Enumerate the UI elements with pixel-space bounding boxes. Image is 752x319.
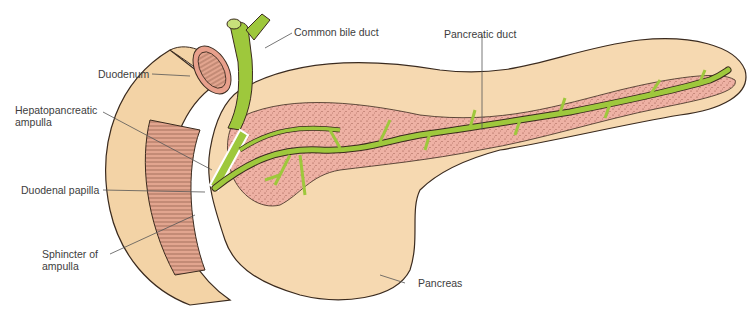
- label-line: Hepatopancreatic: [15, 104, 97, 116]
- label-line: ampulla: [42, 260, 79, 272]
- pancreas: [209, 39, 746, 300]
- label-hepatopancreatic-ampulla: Hepatopancreatic ampulla: [15, 104, 97, 128]
- label-line: Sphincter of: [42, 248, 98, 260]
- label-duodenal-papilla: Duodenal papilla: [21, 184, 99, 196]
- label-pancreatic-duct: Pancreatic duct: [444, 28, 516, 40]
- pancreas-diagram: Duodenum Hepatopancreatic ampulla Duoden…: [0, 0, 752, 319]
- anatomy-illustration: [0, 0, 752, 319]
- label-sphincter-of-ampulla: Sphincter of ampulla: [42, 248, 98, 272]
- label-duodenum: Duodenum: [98, 68, 149, 80]
- label-pancreas: Pancreas: [418, 277, 462, 289]
- label-common-bile-duct: Common bile duct: [294, 26, 379, 38]
- label-line: ampulla: [15, 116, 52, 128]
